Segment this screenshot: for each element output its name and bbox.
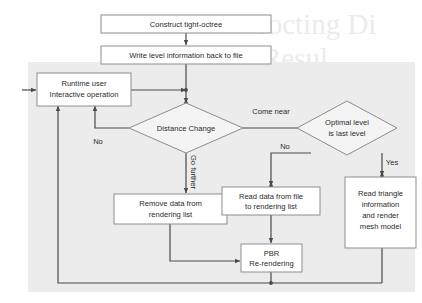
node-pbr-re-rendering[interactable]: PBR Re-rendering	[241, 244, 302, 272]
edge-label-no-left: No	[93, 137, 103, 146]
node-write-level-information-label: Write level information back to file	[129, 51, 242, 60]
node-remove-data-from-rendering-list[interactable]: Remove data from rendering list	[114, 194, 227, 224]
flowchart-figure: rocting Di Resul	[0, 0, 422, 303]
edge-label-no-right: No	[280, 142, 290, 151]
node-read-triangle-line3: and render	[362, 211, 399, 220]
node-read-data-line2: to rendering list	[245, 202, 298, 211]
node-construct-tight-octree-label: Construct tight-octree	[150, 20, 223, 29]
edge-label-go-further: Go further	[189, 155, 198, 190]
flowchart-canvas: rocting Di Resul	[0, 0, 422, 303]
edge-label-yes-right: Yes	[386, 158, 399, 167]
node-pbr-line1: PBR	[264, 249, 280, 258]
node-read-triangle-information[interactable]: Read triangle information and render mes…	[345, 177, 416, 248]
node-remove-data-line1: Remove data from	[139, 199, 201, 208]
edge-label-come-near: Come near	[252, 107, 290, 116]
node-runtime-user-line1: Runtime user	[61, 79, 107, 88]
node-read-data-from-file[interactable]: Read data from file to rendering list	[222, 187, 320, 215]
node-read-triangle-line4: mesh model	[360, 222, 402, 231]
node-pbr-line2: Re-rendering	[249, 259, 293, 268]
node-optimal-level-line1: Optimal level	[325, 118, 369, 127]
node-remove-data-line2: rendering list	[149, 210, 193, 219]
node-runtime-user-interactive-operation[interactable]: Runtime user Interactive operation	[37, 73, 131, 106]
node-runtime-user-line2: Interactive operation	[50, 90, 119, 99]
junction-trunk-upper	[184, 88, 188, 92]
node-read-data-line1: Read data from file	[239, 192, 303, 201]
node-construct-tight-octree[interactable]: Construct tight-octree	[101, 15, 271, 33]
node-read-triangle-line2: information	[362, 200, 400, 209]
background-text-line1: rocting Di	[258, 8, 376, 40]
junction-return-bus	[269, 281, 273, 285]
node-write-level-information[interactable]: Write level information back to file	[101, 46, 271, 64]
node-read-triangle-line1: Read triangle	[358, 189, 403, 198]
node-optimal-level-line2: is last level	[328, 129, 365, 138]
node-distance-change-label: Distance Change	[157, 124, 215, 133]
